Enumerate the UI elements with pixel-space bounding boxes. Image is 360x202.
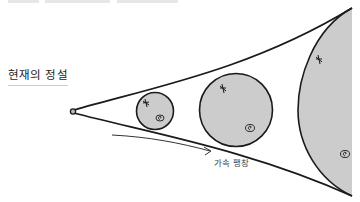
expansion-label: 가속 팽창 [214, 158, 249, 168]
medium-universe [200, 74, 273, 147]
large-universe-fill [298, 8, 352, 196]
small-universe [137, 93, 174, 130]
origin-point [70, 109, 75, 114]
universe-expansion-diagram: 가속 팽창 [0, 0, 360, 202]
